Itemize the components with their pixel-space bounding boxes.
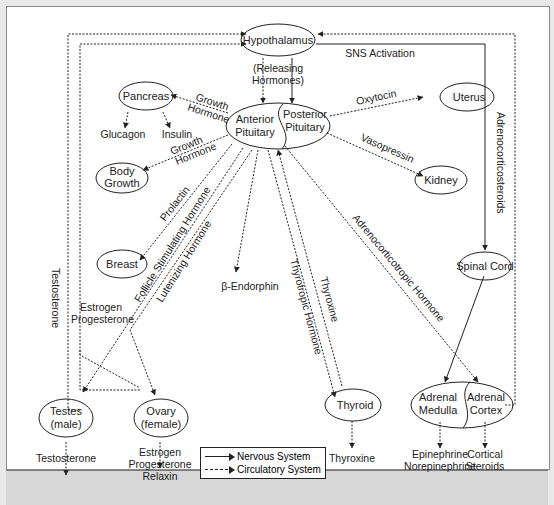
dashed-arrow-icon	[205, 469, 233, 470]
oxytocin-label: Oxytocin	[355, 87, 398, 107]
adrenocorticosteroids-label: Adrenocorticosteroids	[495, 112, 507, 214]
svg-text:Growth: Growth	[104, 177, 139, 189]
legend-circulatory: Circulatory System	[205, 463, 321, 476]
thyroxine-feedback-label: Thyroxine	[318, 275, 342, 323]
vasopressin-label: Vasopressin	[359, 131, 416, 165]
svg-text:(female): (female)	[141, 418, 181, 430]
svg-text:Cortex: Cortex	[470, 404, 503, 416]
kidney-label: Kidney	[424, 174, 458, 186]
svg-text:Steroids: Steroids	[466, 460, 505, 472]
svg-text:Hormones): Hormones)	[252, 74, 304, 86]
svg-text:Medulla: Medulla	[419, 404, 458, 416]
testosterone-output: Testosterone	[36, 452, 96, 464]
sns-activation-label: SNS Activation	[345, 47, 415, 59]
svg-text:Pituitary: Pituitary	[235, 126, 275, 138]
legend-nervous: Nervous System	[205, 450, 310, 463]
hypothalamus-label: Hypothalamus	[243, 34, 314, 46]
svg-text:(male): (male)	[50, 418, 81, 430]
spinal-cord-label: Spinal Cord	[456, 260, 513, 272]
breast-label: Breast	[106, 258, 138, 270]
posterior-pituitary-label: Posterior	[283, 108, 327, 120]
ovary-outputs: Estrogen	[139, 446, 181, 458]
medulla-outputs: Epinephrine	[412, 448, 468, 460]
adrenal-cortex-label: Adrenal	[467, 391, 505, 403]
body-growth-label: Body	[109, 165, 135, 177]
thyrotropic-label: Thyrotropic Hormone	[288, 257, 325, 356]
thyroid-label: Thyroid	[337, 399, 374, 411]
solid-arrow-icon	[205, 456, 233, 457]
acth-label: Adrenocorticotropic Hormone	[350, 212, 447, 324]
cortex-outputs: Cortical	[467, 448, 503, 460]
estrogen-progesterone-label: Estrogen	[80, 301, 122, 313]
svg-text:Pituitary: Pituitary	[285, 121, 325, 133]
ovary-label: Ovary	[146, 405, 176, 417]
svg-text:Relaxin: Relaxin	[142, 470, 177, 482]
adrenal-medulla-label: Adrenal	[419, 391, 457, 403]
testes-label: Testes	[50, 405, 82, 417]
glucagon-output: Glucagon	[101, 128, 146, 140]
pancreas-label: Pancreas	[123, 90, 170, 102]
uterus-label: Uterus	[453, 91, 486, 103]
legend: Nervous System Circulatory System	[200, 447, 326, 479]
svg-text:Progesterone: Progesterone	[128, 458, 191, 470]
thyroxine-output: Thyroxine	[329, 452, 375, 464]
testosterone-feedback-label: Testosterone	[50, 268, 62, 328]
svg-text:Progesterone: Progesterone	[71, 313, 134, 325]
anterior-pituitary-label: Anterior	[236, 113, 275, 125]
beta-endorphin-output: β-Endorphin	[221, 280, 279, 292]
releasing-hormones-label: (Releasing	[253, 62, 303, 74]
